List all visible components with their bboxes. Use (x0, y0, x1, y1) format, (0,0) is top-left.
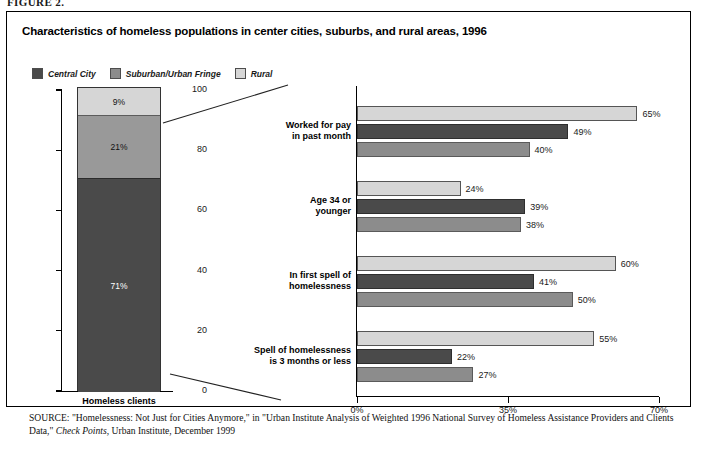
hbar-group-label: Spell of homelessnessis 3 months or less (211, 345, 351, 366)
hbar-bar-suburban-urban-fringe[interactable] (357, 217, 521, 232)
hbar-bar-rural[interactable] (357, 106, 637, 121)
hbar-bar-rural[interactable] (357, 181, 461, 196)
hbar-value-label: 49% (573, 127, 591, 137)
hbar-value-label: 27% (478, 370, 496, 380)
hbar-bar-suburban-urban-fringe[interactable] (357, 367, 473, 382)
hbar-value-label: 65% (642, 109, 660, 119)
hbar-group-label-line: younger (211, 206, 351, 217)
hbar-bar-rural[interactable] (357, 256, 616, 271)
hbar-value-label: 38% (526, 220, 544, 230)
hbar-value-label: 39% (530, 202, 548, 212)
source-text-b: , Urban Institute, December 1999 (107, 425, 235, 436)
hbar-bar-central-city[interactable] (357, 124, 568, 139)
grouped-horizontal-bar-chart: 0%35%70% Worked for payin past month65%4… (7, 12, 704, 408)
hbar-x-tick (659, 397, 660, 403)
hbar-bar-central-city[interactable] (357, 274, 534, 289)
hbar-bar-rural[interactable] (357, 331, 594, 346)
hbar-bar-suburban-urban-fringe[interactable] (357, 142, 530, 157)
hbar-group-label: In first spell ofhomelessness (211, 270, 351, 291)
figure-root: FIGURE 2. Characteristics of homeless po… (0, 0, 704, 450)
hbar-group-label: Worked for payin past month (211, 120, 351, 141)
hbar-bar-suburban-urban-fringe[interactable] (357, 292, 573, 307)
hbar-group-label-line: Age 34 or (211, 195, 351, 206)
hbar-value-label: 55% (599, 334, 617, 344)
hbar-group-label-line: Spell of homelessness (211, 345, 351, 356)
hbar-group-label-line: homelessness (211, 281, 351, 292)
hbar-group-label-line: In first spell of (211, 270, 351, 281)
hbar-value-label: 41% (539, 277, 557, 287)
hbar-value-label: 50% (578, 295, 596, 305)
hbar-x-tick (357, 397, 358, 403)
source-prefix: SOURCE: (29, 412, 70, 423)
source-note: SOURCE: "Homelessness: Not Just for Citi… (29, 412, 689, 437)
hbar-value-label: 60% (621, 259, 639, 269)
source-text-italic: Check Points (56, 425, 107, 436)
hbar-group-label-line: in past month (211, 131, 351, 142)
hbar-value-label: 40% (535, 145, 553, 155)
figure-number-label: FIGURE 2. (7, 0, 64, 8)
hbar-value-label: 22% (457, 352, 475, 362)
hbar-group-label-line: Worked for pay (211, 120, 351, 131)
hbar-bar-central-city[interactable] (357, 199, 525, 214)
hbar-value-label: 24% (466, 184, 484, 194)
hbar-group-label: Age 34 oryounger (211, 195, 351, 216)
figure-frame: Characteristics of homeless populations … (6, 11, 691, 407)
hbar-x-tick (508, 397, 509, 403)
hbar-group-label-line: is 3 months or less (211, 356, 351, 367)
hbar-bar-central-city[interactable] (357, 349, 452, 364)
